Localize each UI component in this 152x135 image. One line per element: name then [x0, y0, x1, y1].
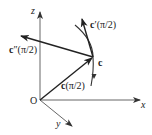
- second-derivative-label: c″(π/2): [9, 44, 37, 56]
- point-c-label: c: [98, 57, 103, 68]
- first-derivative-label: c′(π/2): [90, 19, 116, 31]
- x-axis-label: x: [140, 99, 146, 110]
- space-curve: [75, 25, 93, 86]
- z-axis-label: z: [30, 5, 35, 16]
- space-curve-diagram: z x y O c(π/2) c′(π/2) c″(π/2) c: [0, 0, 152, 135]
- position-vector: [40, 58, 92, 100]
- position-vector-label: c(π/2): [61, 80, 85, 92]
- y-axis-label: y: [55, 118, 61, 129]
- origin-label: O: [30, 95, 37, 106]
